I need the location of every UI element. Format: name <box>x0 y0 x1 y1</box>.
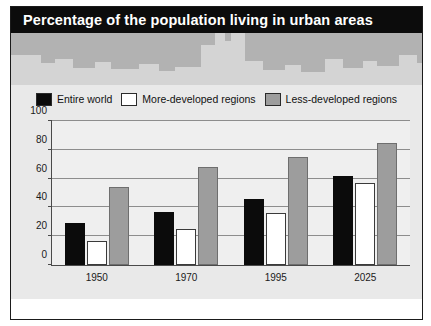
skyline-building <box>263 70 285 85</box>
bar <box>377 143 397 265</box>
chart-legend: Entire world More-developed regions Less… <box>11 85 422 113</box>
skyline-building <box>73 68 95 85</box>
skyline-building <box>215 33 225 85</box>
legend-item-entire-world: Entire world <box>36 93 112 106</box>
bar <box>176 229 196 265</box>
bar <box>154 212 174 265</box>
skyline-building <box>399 55 417 85</box>
skyline-building <box>301 72 325 85</box>
skyline-building <box>377 66 399 85</box>
bar-group: 2025 <box>321 121 411 265</box>
bar <box>355 183 375 265</box>
skyline-building <box>55 59 73 85</box>
skyline-building <box>417 63 422 85</box>
legend-swatch-less-developed-regions <box>265 93 281 106</box>
skyline-building <box>11 55 41 85</box>
chart-frame: Percentage of the population living in u… <box>10 6 423 320</box>
y-axis-tick-label: 20 <box>36 220 47 231</box>
bar <box>198 167 218 265</box>
bar-group: 1970 <box>142 121 232 265</box>
bar-group: 1950 <box>52 121 142 265</box>
bar <box>244 199 264 265</box>
bar-group: 1995 <box>231 121 321 265</box>
title-banner: Percentage of the population living in u… <box>11 7 422 33</box>
bar-groups: 1950197019952025 <box>52 121 410 265</box>
bar <box>333 176 353 265</box>
skyline-building <box>343 68 363 85</box>
chart-title: Percentage of the population living in u… <box>23 12 373 28</box>
skyline-building <box>139 64 159 85</box>
skyline-building <box>245 61 263 85</box>
legend-label-entire-world: Entire world <box>57 93 112 105</box>
skyline-building <box>363 61 377 85</box>
plot-area: 020406080100 1950197019952025 <box>51 121 410 266</box>
footer: Source: United Nations, 1995 <box>11 299 422 320</box>
skyline-building <box>231 33 245 85</box>
y-axis-tick-label: 0 <box>41 249 47 260</box>
legend-label-less-developed-regions: Less-developed regions <box>286 93 398 105</box>
y-axis-tick-label: 80 <box>36 133 47 144</box>
x-axis-tick-label: 1950 <box>52 272 142 283</box>
skyline-building <box>325 59 343 85</box>
chart-figure: Percentage of the population living in u… <box>0 0 431 326</box>
x-axis-tick-label: 1995 <box>231 272 321 283</box>
skyline-building <box>201 45 215 85</box>
plot-area-wrapper: 020406080100 1950197019952025 <box>11 113 422 299</box>
legend-label-more-developed-regions: More-developed regions <box>142 93 255 105</box>
bar <box>288 157 308 265</box>
skyline-building <box>159 71 175 85</box>
skyline-building <box>175 67 201 85</box>
bar <box>87 241 107 265</box>
skyline-building <box>285 65 301 85</box>
bar <box>109 187 129 265</box>
y-axis-tick-label: 100 <box>30 105 47 116</box>
legend-swatch-more-developed-regions <box>121 93 137 106</box>
legend-item-more-developed-regions: More-developed regions <box>121 93 255 106</box>
y-axis-tick-label: 60 <box>36 162 47 173</box>
x-axis-tick-label: 1970 <box>142 272 232 283</box>
legend-item-less-developed-regions: Less-developed regions <box>265 93 398 106</box>
skyline-building <box>111 69 139 85</box>
skyline-building <box>41 63 55 85</box>
city-skyline-graphic <box>11 33 422 85</box>
bar <box>266 213 286 265</box>
y-axis-tick-label: 40 <box>36 191 47 202</box>
x-axis-tick-label: 2025 <box>321 272 411 283</box>
skyline-building <box>95 62 111 85</box>
bar <box>65 223 85 265</box>
